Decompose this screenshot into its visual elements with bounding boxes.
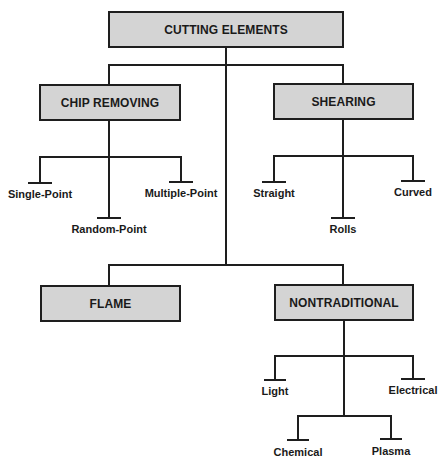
node-label: CHIP REMOVING (61, 96, 159, 110)
leaf-multiple-point: Multiple-Point (145, 187, 218, 199)
leaf-light: Light (262, 385, 289, 397)
leaf-plasma: Plasma (372, 445, 411, 457)
node-chip-removing: CHIP REMOVING (39, 84, 181, 121)
node-shearing: SHEARING (273, 83, 414, 120)
leaf-electrical: Electrical (389, 384, 438, 396)
leaf-rolls: Rolls (330, 223, 357, 235)
root-node-cutting-elements: CUTTING ELEMENTS (108, 11, 344, 48)
node-label: NONTRADITIONAL (289, 296, 398, 310)
leaf-curved: Curved (394, 186, 432, 198)
leaf-random-point: Random-Point (71, 223, 146, 235)
node-nontraditional: NONTRADITIONAL (274, 284, 414, 321)
connector-lines (0, 0, 445, 470)
root-node-label: CUTTING ELEMENTS (164, 23, 288, 37)
node-label: SHEARING (311, 95, 375, 109)
leaf-single-point: Single-Point (8, 188, 72, 200)
leaf-straight: Straight (253, 187, 295, 199)
node-label: FLAME (90, 297, 132, 311)
node-flame: FLAME (40, 285, 181, 322)
leaf-chemical: Chemical (274, 446, 323, 458)
